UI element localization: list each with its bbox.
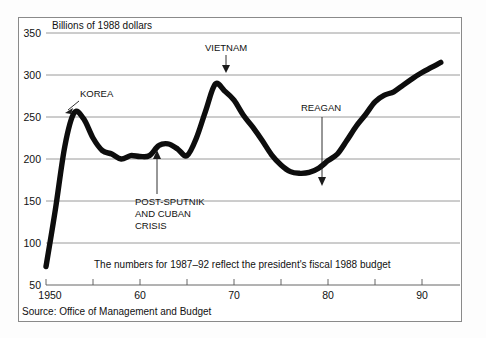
xtick-label-1960: 60 — [134, 289, 146, 301]
annotation-post-sputnik-label-line1: POST-SPUTNIK — [135, 196, 205, 207]
fiscal-note: The numbers for 1987–92 reflect the pres… — [94, 259, 391, 270]
xtick-label-1980: 80 — [322, 289, 334, 301]
ytick-label-150: 150 — [23, 195, 41, 207]
annotation-vietnam-label: VIETNAM — [205, 42, 247, 53]
xtick-label-1950: 1950 — [38, 289, 62, 301]
x-axis-labels: 1950 60 70 80 90 — [38, 289, 428, 301]
chart-figure: 350 300 250 200 150 100 50 1950 60 70 80… — [0, 0, 486, 338]
ytick-label-250: 250 — [23, 111, 41, 123]
x-axis — [46, 279, 460, 285]
annotation-korea: KOREA — [65, 88, 114, 114]
annotation-korea-label: KOREA — [80, 88, 114, 99]
annotation-vietnam-arrowhead — [222, 65, 230, 73]
xtick-label-1970: 70 — [228, 289, 240, 301]
gridlines — [46, 33, 460, 243]
y-axis-labels: 350 300 250 200 150 100 50 — [23, 27, 41, 291]
annotation-post-sputnik-label-line3: CRISIS — [135, 220, 167, 231]
chart-frame: 350 300 250 200 150 100 50 1950 60 70 80… — [18, 17, 462, 322]
ytick-label-300: 300 — [23, 69, 41, 81]
annotation-post-sputnik: POST-SPUTNIK AND CUBAN CRISIS — [135, 150, 205, 231]
ytick-label-200: 200 — [23, 153, 41, 165]
axis-unit-title: Billions of 1988 dollars — [52, 20, 152, 31]
ytick-label-100: 100 — [23, 237, 41, 249]
annotation-vietnam: VIETNAM — [205, 42, 247, 73]
source-note: Source: Office of Management and Budget — [22, 306, 212, 317]
line-chart-canvas: 350 300 250 200 150 100 50 1950 60 70 80… — [19, 18, 461, 321]
annotation-post-sputnik-label-line2: AND CUBAN — [135, 208, 191, 219]
annotation-reagan-arrowhead — [318, 177, 326, 186]
annotation-reagan-label: REAGAN — [301, 102, 341, 113]
xtick-label-1990: 90 — [416, 289, 428, 301]
ytick-label-350: 350 — [23, 27, 41, 39]
